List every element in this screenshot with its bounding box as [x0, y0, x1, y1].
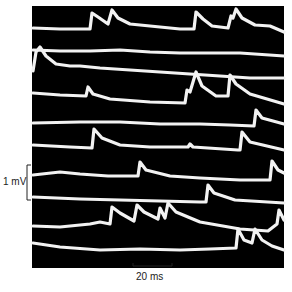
time-scale-label: 20 ms	[136, 271, 163, 282]
voltage-scale-label: 1 mV	[3, 176, 26, 187]
voltage-scale-bar	[27, 165, 31, 200]
trace-figure	[0, 0, 292, 292]
